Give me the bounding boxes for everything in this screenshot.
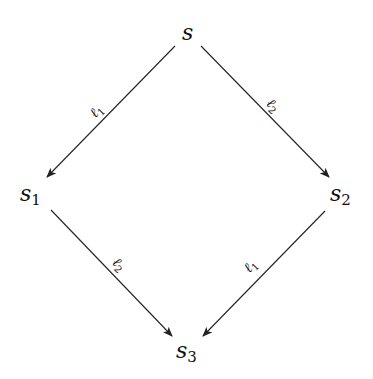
edge-s-to-s2 [201,46,329,177]
node-s2: s2 [330,181,351,209]
node-s: s [182,20,193,45]
node-s1: s1 [20,181,41,209]
edge-s1-to-s3 [51,210,172,336]
svg-text:ℓ1: ℓ1 [240,256,261,277]
edge-label-s2-s3: ℓ1 [240,256,261,277]
diagram-canvas: s s1 s2 s3 ℓ1 ℓ2 ℓ2 ℓ1 [0,0,373,379]
edge-s2-to-s3 [203,211,325,336]
edge-s-to-s1 [47,46,175,177]
edge-label-s-s2: ℓ2 [262,95,283,116]
node-s3: s3 [176,338,197,366]
svg-text:ℓ2: ℓ2 [262,95,283,116]
